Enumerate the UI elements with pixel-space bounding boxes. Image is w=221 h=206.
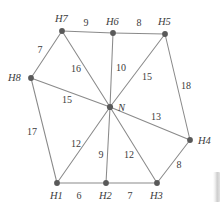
graph-diagram: 9871610151815131712912867 NH1H2H3H4H5H6H… (0, 0, 221, 206)
graph-canvas: 9871610151815131712912867 NH1H2H3H4H5H6H… (0, 0, 221, 206)
edge-weight-N-H2: 9 (99, 149, 104, 160)
edge-weight-N-H1: 12 (71, 138, 81, 149)
node-label-H7: H7 (54, 13, 69, 24)
node-label-H1: H1 (49, 190, 63, 201)
graph-edge-H7-H6 (62, 31, 113, 33)
graph-node-H1 (54, 180, 60, 186)
node-label-N: N (117, 102, 126, 113)
graph-node-N (107, 104, 113, 110)
edge-weight-N-H4: 13 (151, 111, 161, 122)
graph-node-H8 (28, 75, 34, 81)
edge-weight-H8-H7: 7 (38, 44, 43, 55)
edge-weight-H2-H3: 7 (128, 190, 133, 201)
edge-weight-H3-H4: 8 (177, 159, 182, 170)
node-label-H2: H2 (98, 190, 113, 201)
graph-node-H7 (59, 28, 65, 34)
edge-weight-N-H3: 12 (124, 149, 134, 160)
graph-edge-H6-N (110, 33, 113, 107)
scrollbar-artifact[interactable] (213, 172, 220, 202)
node-label-H5: H5 (157, 16, 171, 27)
graph-edge-N-H3 (110, 107, 157, 183)
graph-edge-H8-H7 (31, 31, 62, 78)
graph-node-H4 (187, 137, 193, 143)
edge-weight-H6-N: 10 (116, 62, 126, 73)
edge-weight-H7-H6: 9 (84, 17, 89, 28)
node-label-H3: H3 (149, 190, 163, 201)
edge-weight-H5-H4: 18 (181, 80, 191, 91)
graph-edge-N-H1 (57, 107, 110, 183)
edge-weight-H5-N: 15 (142, 71, 152, 82)
graph-node-H5 (162, 31, 168, 37)
edge-weight-H1-H2: 6 (77, 190, 82, 201)
node-label-H8: H8 (7, 72, 22, 83)
node-label-H6: H6 (105, 16, 120, 27)
graph-edge-H6-H5 (113, 33, 165, 34)
nodes-layer (28, 28, 193, 186)
graph-node-H3 (154, 180, 160, 186)
graph-edge-H3-H4 (157, 140, 190, 183)
node-label-H4: H4 (197, 135, 212, 146)
edge-weight-H6-H5: 8 (137, 17, 142, 28)
graph-node-H2 (103, 180, 109, 186)
edge-weight-H7-N: 16 (71, 63, 81, 74)
edge-weight-H8-N: 15 (62, 94, 72, 105)
graph-edge-N-H2 (106, 107, 110, 183)
edge-weight-H8-H1: 17 (27, 126, 37, 137)
graph-node-H6 (110, 30, 116, 36)
